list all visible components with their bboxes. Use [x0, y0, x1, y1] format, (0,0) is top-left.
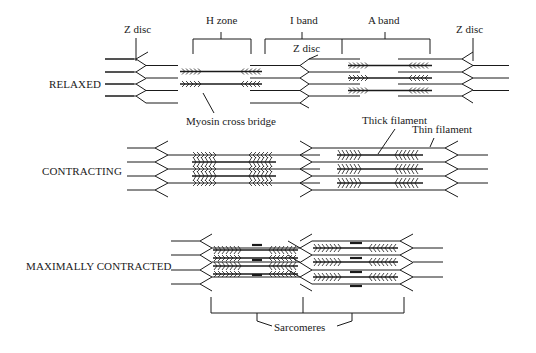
label-i-band: I band: [290, 14, 318, 26]
label-z-disc-left: Z disc: [124, 23, 151, 35]
annotations: Myosin cross bridge Thick filament Thin …: [186, 93, 472, 333]
label-z-disc-right: Z disc: [456, 23, 483, 35]
label-a-band: A band: [368, 14, 400, 26]
stage-label-contracting: CONTRACTING: [42, 165, 122, 177]
relaxed-sarcomere: [105, 52, 509, 108]
label-myosin-cross-bridge: Myosin cross bridge: [186, 115, 276, 127]
stage-label-maximally-contracted: MAXIMALLY CONTRACTED: [26, 260, 172, 272]
label-z-disc-mid: Z disc: [293, 42, 320, 54]
max-contracted-sarcomere: [171, 234, 443, 291]
contracting-sarcomere: [127, 141, 488, 197]
stage-label-relaxed: RELAXED: [49, 78, 101, 90]
label-thin-filament: Thin filament: [412, 123, 472, 135]
label-h-zone: H zone: [206, 14, 238, 26]
label-sarcomeres: Sarcomeres: [274, 321, 325, 333]
sarcomere-diagram: Z disc H zone I band A band Z disc Z dis…: [0, 0, 536, 353]
top-labels: Z disc H zone I band A band Z disc Z dis…: [124, 14, 483, 61]
